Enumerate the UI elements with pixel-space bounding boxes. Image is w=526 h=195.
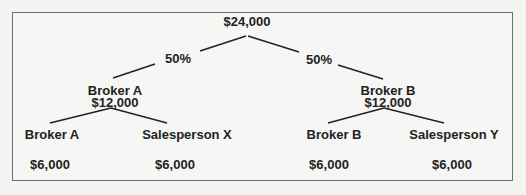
root-amount: $24,000 [224, 15, 271, 29]
right-branch-amount: $12,000 [365, 96, 412, 110]
leaf-salesperson-x-amount: $6,000 [155, 158, 195, 172]
leaf-salesperson-y-amount: $6,000 [432, 158, 472, 172]
split-right-percent: 50% [306, 53, 332, 67]
leaf-broker-b-amount: $6,000 [309, 158, 349, 172]
left-branch-amount: $12,000 [92, 96, 139, 110]
leaf-salesperson-y-name: Salesperson Y [409, 128, 498, 142]
leaf-broker-a-name: Broker A [25, 128, 79, 142]
leaf-salesperson-x-name: Salesperson X [142, 128, 232, 142]
leaf-broker-b-name: Broker B [307, 128, 362, 142]
split-left-percent: 50% [165, 52, 191, 66]
leaf-broker-a-amount: $6,000 [30, 158, 70, 172]
